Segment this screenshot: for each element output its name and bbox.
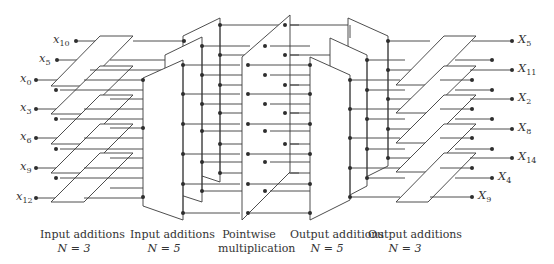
output-label-X2: X2 [518,92,531,106]
input-label-x5: x5 [39,53,51,67]
caption-line1: Input additions [40,228,108,242]
output-label-X9: X9 [478,190,491,204]
input-label-x9: x9 [20,161,32,175]
input-label-x0: x0 [20,73,32,87]
caption-line1: Input additions [130,228,198,242]
output-label-X11: X11 [518,63,536,77]
caption-line1: Output additions [290,228,364,242]
caption-line1: Pointwise [218,228,280,242]
output-label-X5: X5 [518,34,531,48]
output-label-X8: X8 [518,122,531,136]
input-label-x6: x6 [20,131,32,145]
caption-line2: multiplication [218,242,280,256]
output-additions-n3-stage [396,36,514,202]
caption-input-additions-n5: Input additions N = 5 [130,228,198,256]
caption-input-additions-n3: Input additions N = 3 [40,228,108,256]
caption-line2: N = 3 [368,242,442,256]
input-label-x10: x10 [53,34,70,48]
caption-output-additions-n5: Output additions N = 5 [290,228,364,256]
output-label-X14: X14 [518,151,536,165]
output-label-X4: X4 [498,171,511,185]
input-label-x3: x3 [20,102,32,116]
caption-line1: Output additions [368,228,442,242]
caption-pointwise-multiplication: Pointwise multiplication [218,228,280,256]
flow-diagram [0,0,554,264]
caption-line2: N = 5 [290,242,364,256]
caption-output-additions-n3: Output additions N = 3 [368,228,442,256]
caption-line2: N = 5 [130,242,198,256]
input-label-x12: x12 [16,191,33,205]
caption-line2: N = 3 [40,242,108,256]
